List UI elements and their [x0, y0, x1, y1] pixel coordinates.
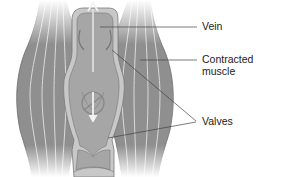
label-contracted-muscle-line2: muscle	[202, 66, 235, 77]
label-valves: Valves	[202, 116, 233, 127]
muscle-pump-diagram	[0, 0, 295, 177]
label-vein: Vein	[202, 21, 222, 32]
label-contracted-muscle-line1: Contracted	[202, 54, 253, 65]
